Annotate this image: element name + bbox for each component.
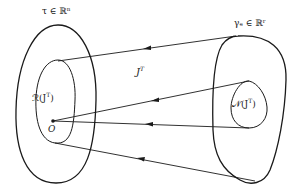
- mapping-diagram: τ ∈ ℝⁿ γₑ ∈ ℝʳ JT ℛ(JT) 𝒩(JT) O: [0, 0, 302, 190]
- domain-set-label: τ ∈ ℝⁿ: [42, 7, 71, 16]
- null-subset-label: 𝒩(JT): [232, 98, 256, 109]
- arrow-null-bottom-head: [145, 122, 153, 127]
- arrow-null-top-head: [151, 98, 159, 103]
- null-suffix: ): [252, 99, 256, 109]
- null-prefix: 𝒩(J: [232, 99, 248, 109]
- mapping-superscript: T: [140, 65, 144, 72]
- origin-label: O: [48, 125, 55, 134]
- range-prefix: ℛ(J: [32, 93, 46, 103]
- range-suffix: ): [50, 93, 54, 103]
- origin-point: [51, 119, 55, 123]
- codomain-set-label: γₑ ∈ ℝʳ: [234, 19, 266, 28]
- codomain-set-boundary: [213, 36, 286, 183]
- domain-set-boundary: [16, 25, 96, 183]
- arrow-bottom-line: [55, 143, 255, 181]
- range-subset-label: ℛ(JT): [32, 92, 54, 103]
- mapping-label: JT: [136, 66, 144, 77]
